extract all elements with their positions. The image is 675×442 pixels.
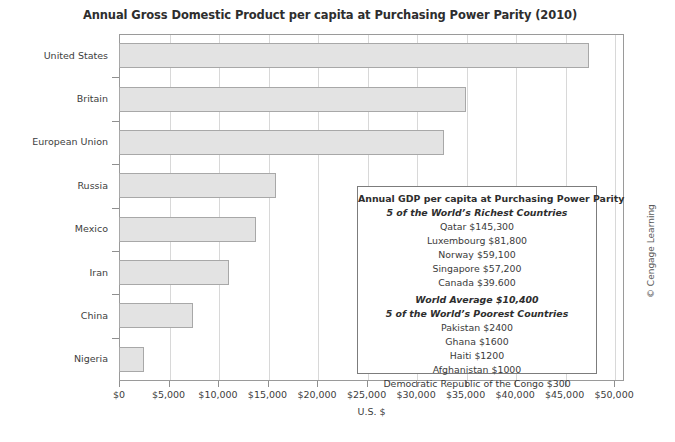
info-box-country-row: Pakistan $2400 bbox=[358, 321, 596, 335]
bar bbox=[119, 173, 276, 198]
y-axis-label: China bbox=[0, 310, 108, 321]
copyright-credit: © Cengage Learning bbox=[646, 204, 656, 298]
info-box-country-row: Luxembourg $81,800 bbox=[358, 234, 596, 248]
info-box-country-row: Qatar $145,300 bbox=[358, 220, 596, 234]
info-box-richest-list: Qatar $145,300Luxembourg $81,800Norway $… bbox=[358, 220, 596, 290]
info-box-heading: Annual GDP per capita at Purchasing Powe… bbox=[358, 192, 596, 206]
y-axis-tick bbox=[112, 294, 119, 295]
y-axis-tick bbox=[112, 208, 119, 209]
x-axis-tick bbox=[169, 381, 170, 387]
x-axis-tick-label: $10,000 bbox=[198, 389, 237, 400]
info-box-country-row: Democratic Republic of the Congo $300 bbox=[358, 377, 596, 391]
y-axis-tick bbox=[112, 77, 119, 78]
y-axis-tick bbox=[112, 164, 119, 165]
y-axis-label: Britain bbox=[0, 93, 108, 104]
y-axis-label: United States bbox=[0, 50, 108, 61]
bar bbox=[119, 217, 256, 242]
bar bbox=[119, 130, 444, 155]
y-axis-tick bbox=[112, 251, 119, 252]
info-box-country-row: Singapore $57,200 bbox=[358, 262, 596, 276]
x-axis-title: U.S. $ bbox=[119, 406, 624, 417]
y-axis-label: Mexico bbox=[0, 223, 108, 234]
y-axis-tick bbox=[112, 121, 119, 122]
bar bbox=[119, 303, 193, 328]
info-box-country-row: Ghana $1600 bbox=[358, 335, 596, 349]
x-axis-tick bbox=[218, 381, 219, 387]
bar bbox=[119, 87, 466, 112]
bar bbox=[119, 347, 144, 372]
y-axis-tick bbox=[112, 338, 119, 339]
info-box-world-average: World Average $10,400 bbox=[358, 293, 596, 307]
x-axis-tick-label: $20,000 bbox=[297, 389, 336, 400]
y-axis-label: Iran bbox=[0, 267, 108, 278]
x-axis-tick-label: $0 bbox=[113, 389, 125, 400]
info-box-country-row: Canada $39.600 bbox=[358, 276, 596, 290]
info-box-country-row: Haiti $1200 bbox=[358, 349, 596, 363]
x-axis-tick bbox=[119, 381, 120, 387]
x-axis-tick bbox=[614, 381, 615, 387]
chart-figure: Annual Gross Domestic Product per capita… bbox=[0, 0, 675, 442]
info-box-country-row: Norway $59,100 bbox=[358, 248, 596, 262]
info-box-poorest-heading: 5 of the World’s Poorest Countries bbox=[358, 307, 596, 321]
info-box: Annual GDP per capita at Purchasing Powe… bbox=[357, 186, 597, 374]
x-axis-tick-label: $15,000 bbox=[248, 389, 287, 400]
bar bbox=[119, 43, 589, 68]
y-axis-label: Russia bbox=[0, 180, 108, 191]
x-axis-tick bbox=[268, 381, 269, 387]
y-axis-label: European Union bbox=[0, 136, 108, 147]
x-axis-tick-label: $5,000 bbox=[152, 389, 185, 400]
info-box-richest-heading: 5 of the World’s Richest Countries bbox=[358, 206, 596, 220]
chart-title: Annual Gross Domestic Product per capita… bbox=[0, 8, 660, 22]
info-box-poorest-list: Pakistan $2400Ghana $1600Haiti $1200Afgh… bbox=[358, 321, 596, 391]
x-axis-tick bbox=[317, 381, 318, 387]
y-axis-label: Nigeria bbox=[0, 353, 108, 364]
info-box-country-row: Afghanistan $1000 bbox=[358, 363, 596, 377]
x-axis-tick-label: $50,000 bbox=[594, 389, 633, 400]
bar bbox=[119, 260, 229, 285]
